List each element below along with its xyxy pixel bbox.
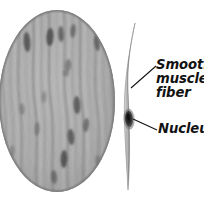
isolated-fiber-svg bbox=[116, 22, 150, 192]
label-nucleus: Nucleus bbox=[158, 122, 204, 136]
fiber-body bbox=[116, 22, 150, 192]
label-smooth-muscle-fiber-line-1: Smooth bbox=[156, 58, 204, 72]
smooth-muscle-figure: Smooth muscle fiber Nucleus bbox=[0, 0, 204, 201]
tissue-section-panel bbox=[0, 9, 116, 193]
isolated-fiber-panel bbox=[116, 22, 150, 192]
label-smooth-muscle-fiber-line-3: fiber bbox=[156, 86, 204, 100]
label-smooth-muscle-fiber-line-2: muscle bbox=[156, 72, 204, 86]
label-smooth-muscle-fiber: Smooth muscle fiber bbox=[156, 58, 204, 100]
tissue-section-svg bbox=[0, 9, 116, 193]
